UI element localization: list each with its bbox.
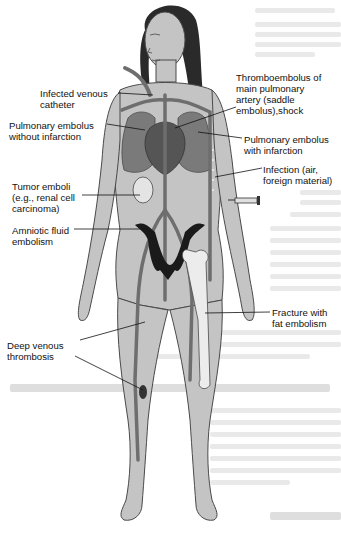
label-amniotic-fluid-embolism: Amniotic fluid embolism — [12, 225, 69, 247]
label-thromboembolus-saddle: Thromboembolus of main pulmonary artery … — [236, 72, 321, 116]
kidney — [133, 177, 153, 203]
dvt-clot — [139, 385, 147, 399]
label-pe-without-infarction: Pulmonary embolus without infarction — [9, 120, 94, 142]
label-infection-air: Infection (air, foreign material) — [263, 164, 332, 186]
label-infected-venous-catheter: Infected venous catheter — [40, 88, 108, 110]
label-deep-venous-thrombosis: Deep venous thrombosis — [7, 340, 64, 362]
emboli-diagram: Infected venous catheter Thromboembolus … — [0, 0, 341, 536]
label-tumor-emboli: Tumor emboli (e.g., renal cell carcinoma… — [12, 181, 75, 214]
label-fracture-fat-embolism: Fracture with fat embolism — [272, 307, 327, 329]
label-pe-with-infarction: Pulmonary embolus with infarction — [244, 134, 329, 156]
